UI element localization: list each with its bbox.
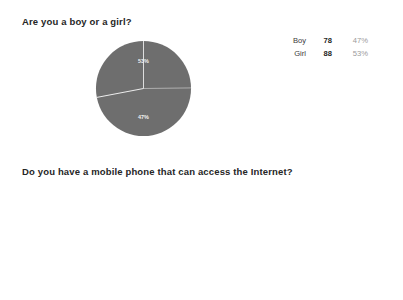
legend-row-count-girl: 88	[315, 49, 332, 59]
pie-slice-label-girl: 53%	[138, 58, 149, 64]
chart-title-gender: Are you a boy or a girl?	[22, 16, 132, 27]
pie-chart-gender: 53% 47%	[95, 40, 192, 137]
chart-block-mobile-internet: Do you have a mobile phone that can acce…	[0, 150, 403, 300]
legend-gender: Boy 78 47% Girl 88 53%	[284, 36, 368, 59]
legend-row-percent-boy: 47%	[341, 36, 368, 46]
legend-row-label-girl: Girl	[284, 49, 306, 59]
pie-chart-gender-svg: 53% 47%	[95, 40, 192, 137]
legend-row-label-boy: Boy	[284, 36, 306, 46]
chart-title-mobile-internet: Do you have a mobile phone that can acce…	[22, 166, 293, 177]
legend-row-percent-girl: 53%	[341, 49, 368, 59]
pie-slice-label-boy: 47%	[138, 114, 149, 120]
report-page: Are you a boy or a girl? 53% 47% Boy 78 …	[0, 0, 403, 300]
chart-block-gender: Are you a boy or a girl? 53% 47% Boy 78 …	[0, 0, 403, 150]
legend-row-count-boy: 78	[315, 36, 332, 46]
